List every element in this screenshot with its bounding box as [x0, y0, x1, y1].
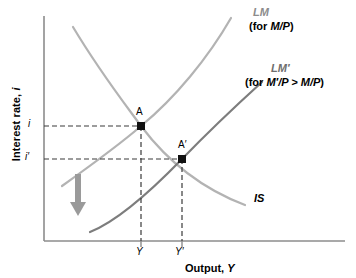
point-a-marker	[137, 122, 145, 130]
lm-sublabel-suffix: )	[290, 20, 294, 32]
lm-sublabel-prefix: (for	[249, 20, 270, 32]
y-tick-label-i: i	[28, 118, 30, 130]
x-axis-title-var: Y	[227, 262, 234, 274]
x-axis-title-text: Output,	[185, 262, 227, 274]
is-curve-label: IS	[254, 192, 264, 205]
x-tick-label-Y-prime: Y′	[175, 246, 184, 258]
lm-prime-sublabel-suffix: )	[320, 76, 324, 88]
lm-curve-sublabel: (for M/P)	[249, 20, 294, 33]
lm-prime-sublabel-prefix: (for	[245, 76, 266, 88]
point-a-prime-marker	[178, 155, 186, 163]
y-axis-title-text: Interest rate,	[10, 91, 22, 162]
x-axis-title: Output, Y	[185, 262, 235, 275]
y-axis-title: Interest rate, i	[10, 64, 23, 184]
is-lm-diagram: Interest rate, i Output, Y i i′ Y Y′ LM …	[0, 0, 356, 278]
downward-shift-arrow	[70, 174, 86, 216]
lm-prime-curve-label: LM′	[271, 62, 290, 75]
y-tick-label-i-prime: i′	[25, 151, 29, 163]
lm-sublabel-var: M/P	[270, 20, 290, 32]
lm-curve-label: LM	[253, 6, 269, 19]
lm-prime-sublabel-var: M′/P > M/P	[266, 76, 320, 88]
y-axis-title-var: i	[10, 87, 22, 90]
is-curve	[73, 27, 245, 205]
x-tick-label-Y: Y	[136, 246, 143, 258]
lm-prime-curve-sublabel: (for M′/P > M/P)	[245, 76, 324, 89]
point-a-label: A	[136, 106, 143, 118]
lm-prime-curve	[90, 82, 262, 232]
point-a-prime-label: A′	[178, 139, 187, 151]
lm-curve	[62, 18, 231, 186]
